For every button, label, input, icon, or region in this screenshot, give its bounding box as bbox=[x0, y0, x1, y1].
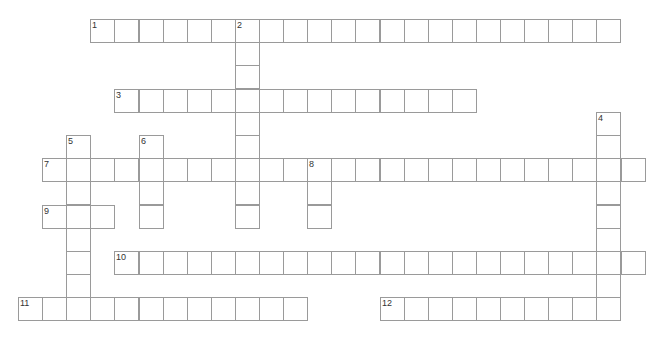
crossword-cell[interactable] bbox=[114, 19, 139, 43]
crossword-cell[interactable] bbox=[596, 251, 621, 275]
crossword-cell[interactable] bbox=[187, 158, 212, 182]
crossword-cell[interactable] bbox=[331, 158, 356, 182]
crossword-cell[interactable] bbox=[139, 181, 164, 205]
crossword-cell[interactable] bbox=[331, 19, 356, 43]
crossword-cell[interactable] bbox=[307, 205, 332, 229]
crossword-cell[interactable] bbox=[235, 89, 260, 113]
crossword-cell[interactable] bbox=[259, 251, 284, 275]
crossword-cell[interactable] bbox=[283, 89, 308, 113]
crossword-cell[interactable] bbox=[476, 251, 501, 275]
crossword-cell[interactable] bbox=[500, 158, 525, 182]
crossword-cell[interactable] bbox=[380, 19, 405, 43]
crossword-cell[interactable] bbox=[428, 297, 453, 321]
crossword-cell[interactable] bbox=[235, 251, 260, 275]
crossword-cell[interactable] bbox=[404, 251, 429, 275]
crossword-cell[interactable] bbox=[596, 205, 621, 229]
crossword-cell[interactable] bbox=[452, 251, 477, 275]
crossword-cell[interactable] bbox=[452, 89, 477, 113]
crossword-cell[interactable] bbox=[380, 251, 405, 275]
crossword-cell[interactable] bbox=[139, 158, 164, 182]
crossword-cell[interactable] bbox=[211, 297, 236, 321]
crossword-cell[interactable] bbox=[596, 158, 621, 182]
crossword-cell[interactable] bbox=[500, 251, 525, 275]
crossword-cell[interactable]: 3 bbox=[114, 89, 139, 113]
crossword-cell[interactable] bbox=[355, 19, 380, 43]
crossword-cell[interactable]: 7 bbox=[42, 158, 67, 182]
crossword-cell[interactable] bbox=[235, 181, 260, 205]
crossword-cell[interactable]: 12 bbox=[380, 297, 405, 321]
crossword-cell[interactable] bbox=[355, 251, 380, 275]
crossword-cell[interactable] bbox=[211, 158, 236, 182]
crossword-cell[interactable] bbox=[235, 42, 260, 66]
crossword-cell[interactable] bbox=[187, 19, 212, 43]
crossword-cell[interactable] bbox=[596, 19, 621, 43]
crossword-cell[interactable] bbox=[139, 19, 164, 43]
crossword-cell[interactable] bbox=[621, 251, 646, 275]
crossword-cell[interactable] bbox=[524, 251, 549, 275]
crossword-cell[interactable] bbox=[404, 158, 429, 182]
crossword-cell[interactable]: 11 bbox=[18, 297, 43, 321]
crossword-cell[interactable] bbox=[452, 19, 477, 43]
crossword-cell[interactable] bbox=[211, 251, 236, 275]
crossword-cell[interactable] bbox=[404, 297, 429, 321]
crossword-cell[interactable] bbox=[596, 181, 621, 205]
crossword-cell[interactable] bbox=[90, 158, 115, 182]
crossword-cell[interactable] bbox=[476, 19, 501, 43]
crossword-cell[interactable] bbox=[428, 19, 453, 43]
crossword-cell[interactable]: 8 bbox=[307, 158, 332, 182]
crossword-cell[interactable] bbox=[66, 228, 91, 252]
crossword-cell[interactable] bbox=[235, 205, 260, 229]
crossword-cell[interactable] bbox=[235, 158, 260, 182]
crossword-cell[interactable] bbox=[596, 228, 621, 252]
crossword-cell[interactable] bbox=[42, 297, 67, 321]
crossword-cell[interactable] bbox=[524, 297, 549, 321]
crossword-cell[interactable]: 4 bbox=[596, 112, 621, 136]
crossword-cell[interactable] bbox=[187, 251, 212, 275]
crossword-cell[interactable] bbox=[524, 19, 549, 43]
crossword-cell[interactable] bbox=[596, 135, 621, 159]
crossword-cell[interactable] bbox=[307, 251, 332, 275]
crossword-cell[interactable] bbox=[380, 89, 405, 113]
crossword-cell[interactable] bbox=[66, 274, 91, 298]
crossword-cell[interactable] bbox=[428, 158, 453, 182]
crossword-cell[interactable] bbox=[163, 19, 188, 43]
crossword-cell[interactable] bbox=[259, 19, 284, 43]
crossword-cell[interactable] bbox=[139, 89, 164, 113]
crossword-cell[interactable] bbox=[163, 251, 188, 275]
crossword-cell[interactable] bbox=[428, 89, 453, 113]
crossword-cell[interactable] bbox=[66, 205, 91, 229]
crossword-cell[interactable] bbox=[235, 112, 260, 136]
crossword-cell[interactable] bbox=[259, 158, 284, 182]
crossword-cell[interactable] bbox=[355, 158, 380, 182]
crossword-cell[interactable] bbox=[331, 89, 356, 113]
crossword-cell[interactable] bbox=[66, 158, 91, 182]
crossword-cell[interactable]: 1 bbox=[90, 19, 115, 43]
crossword-cell[interactable] bbox=[259, 89, 284, 113]
crossword-cell[interactable] bbox=[283, 19, 308, 43]
crossword-cell[interactable] bbox=[548, 297, 573, 321]
crossword-cell[interactable] bbox=[187, 297, 212, 321]
crossword-cell[interactable] bbox=[66, 181, 91, 205]
crossword-cell[interactable] bbox=[139, 205, 164, 229]
crossword-cell[interactable] bbox=[404, 89, 429, 113]
crossword-cell[interactable] bbox=[331, 251, 356, 275]
crossword-cell[interactable] bbox=[139, 297, 164, 321]
crossword-cell[interactable] bbox=[307, 181, 332, 205]
crossword-cell[interactable] bbox=[114, 158, 139, 182]
crossword-cell[interactable] bbox=[572, 19, 597, 43]
crossword-cell[interactable] bbox=[380, 158, 405, 182]
crossword-cell[interactable] bbox=[548, 251, 573, 275]
crossword-cell[interactable] bbox=[596, 297, 621, 321]
crossword-cell[interactable] bbox=[428, 251, 453, 275]
crossword-cell[interactable]: 2 bbox=[235, 19, 260, 43]
crossword-cell[interactable] bbox=[307, 19, 332, 43]
crossword-cell[interactable] bbox=[500, 19, 525, 43]
crossword-cell[interactable] bbox=[548, 19, 573, 43]
crossword-cell[interactable] bbox=[66, 251, 91, 275]
crossword-cell[interactable] bbox=[596, 274, 621, 298]
crossword-cell[interactable] bbox=[572, 297, 597, 321]
crossword-cell[interactable] bbox=[259, 297, 284, 321]
crossword-cell[interactable] bbox=[404, 19, 429, 43]
crossword-cell[interactable] bbox=[235, 297, 260, 321]
crossword-cell[interactable] bbox=[235, 65, 260, 89]
